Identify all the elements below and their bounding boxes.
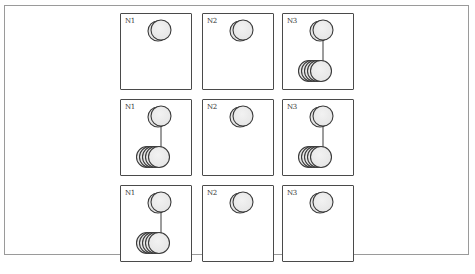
node-box-n1: N1 bbox=[120, 13, 192, 90]
disk-group bbox=[121, 14, 193, 91]
replica-disk-icon bbox=[151, 106, 171, 126]
stack-disk-icon bbox=[149, 233, 170, 254]
replica-disk-icon bbox=[313, 106, 333, 126]
node-box-n3: N3 bbox=[282, 99, 354, 176]
node-box-n2: N2 bbox=[202, 13, 274, 90]
replica-disk-icon bbox=[313, 20, 333, 40]
replica-disk-icon bbox=[151, 192, 171, 212]
stack-disk-icon bbox=[149, 147, 170, 168]
replica-disk-icon bbox=[233, 20, 253, 40]
disk-group bbox=[203, 100, 275, 177]
replica-disk-icon bbox=[233, 192, 253, 212]
node-box-n3: N3 bbox=[282, 185, 354, 262]
replica-disk-icon bbox=[313, 192, 333, 212]
disk-group bbox=[283, 14, 355, 91]
disk-group bbox=[203, 14, 275, 91]
node-box-n1: N1 bbox=[120, 185, 192, 262]
stack-disk-icon bbox=[311, 147, 332, 168]
node-box-n2: N2 bbox=[202, 99, 274, 176]
replica-disk-icon bbox=[233, 106, 253, 126]
node-box-n1: N1 bbox=[120, 99, 192, 176]
replica-disk-icon bbox=[151, 20, 171, 40]
disk-group bbox=[283, 186, 355, 263]
disk-group bbox=[121, 100, 193, 177]
disk-group bbox=[283, 100, 355, 177]
stack-disk-icon bbox=[311, 61, 332, 82]
disk-group bbox=[121, 186, 193, 263]
node-box-n3: N3 bbox=[282, 13, 354, 90]
disk-group bbox=[203, 186, 275, 263]
node-box-n2: N2 bbox=[202, 185, 274, 262]
